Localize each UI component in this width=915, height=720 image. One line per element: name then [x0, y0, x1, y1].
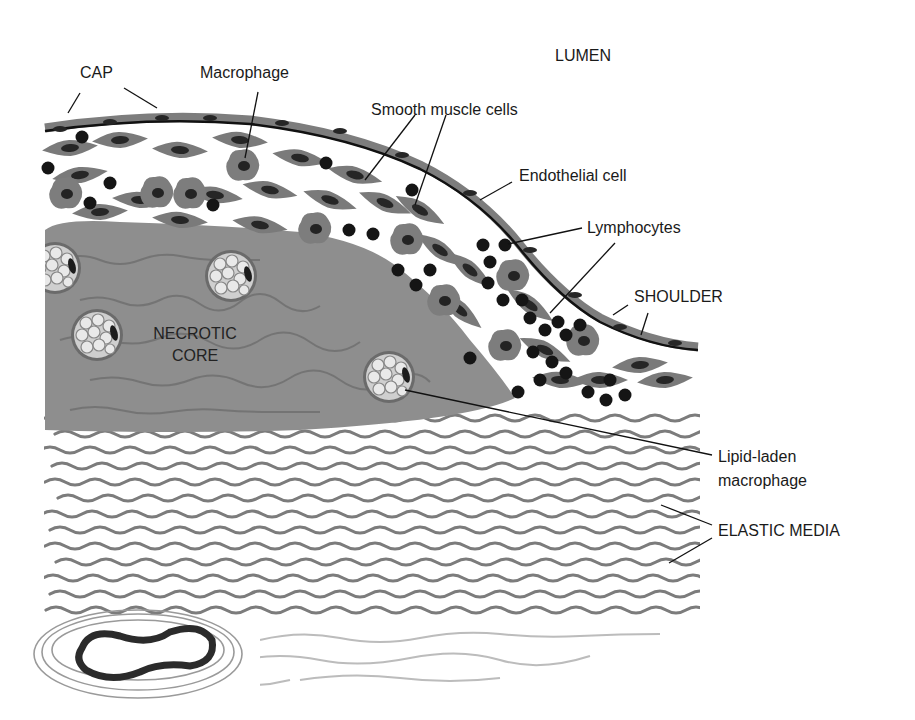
label-lipid-laden-line1: Lipid-laden — [718, 448, 796, 466]
label-necrotic-core: NECROTIC CORE — [140, 323, 250, 367]
label-macrophage: Macrophage — [200, 64, 289, 82]
foam-cell — [205, 250, 257, 302]
label-endothelial-cell: Endothelial cell — [519, 167, 627, 185]
label-necrotic-core-line1: NECROTIC — [140, 323, 250, 345]
label-smooth-muscle-cells: Smooth muscle cells — [371, 101, 518, 119]
label-lipid-laden-line2: macrophage — [718, 472, 807, 490]
label-lumen: LUMEN — [555, 47, 611, 65]
label-elastic-media: ELASTIC MEDIA — [718, 522, 840, 540]
label-necrotic-core-line2: CORE — [140, 345, 250, 367]
label-lymphocytes: Lymphocytes — [587, 219, 681, 237]
elastic-media-fibers — [40, 415, 718, 613]
label-shoulder: SHOULDER — [634, 288, 723, 306]
label-cap: CAP — [80, 64, 113, 82]
plaque-diagram: CAP Macrophage LUMEN Smooth muscle cells… — [0, 0, 915, 720]
